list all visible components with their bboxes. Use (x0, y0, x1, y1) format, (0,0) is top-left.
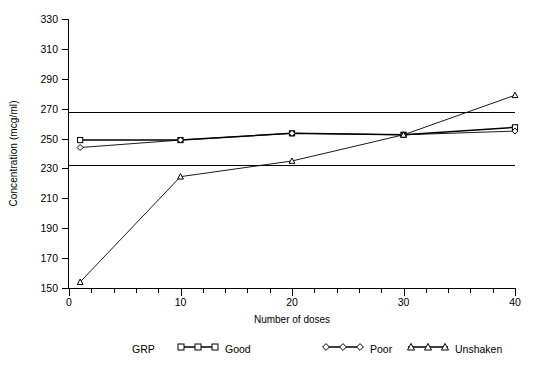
y-tick-label-text: 270 (28, 104, 58, 114)
diamond-marker (357, 344, 364, 351)
y-tick-label-text: 230 (28, 163, 58, 173)
y-tick-label: 150 (26, 283, 58, 293)
y-tick-label-text: 250 (28, 134, 58, 144)
x-tick-minor (203, 289, 204, 293)
y-tick (62, 19, 69, 20)
y-axis-title: Concentration (mcg/ml) (8, 19, 26, 288)
diamond-marker (77, 145, 83, 151)
y-tick-label: 210 (26, 193, 58, 203)
x-tick-minor (314, 289, 315, 293)
y-tick (62, 168, 69, 169)
x-tick-major (181, 289, 182, 296)
plot-area (69, 19, 515, 288)
y-tick-label-text: 330 (28, 14, 58, 24)
series-unshaken (77, 92, 518, 284)
x-tick-minor (337, 289, 338, 293)
x-tick-minor (114, 289, 115, 293)
y-tick-label: 270 (26, 104, 58, 114)
y-tick (62, 228, 69, 229)
x-tick-minor (136, 289, 137, 293)
x-tick-minor (359, 289, 360, 293)
x-tick-major (515, 289, 516, 296)
y-tick-label-text: 170 (28, 253, 58, 263)
legend-label-poor: Poor (370, 343, 392, 355)
y-tick (62, 198, 69, 199)
x-tick-minor (493, 289, 494, 293)
x-tick-label: 30 (384, 296, 424, 308)
x-tick-minor (91, 289, 92, 293)
y-tick-label: 290 (26, 74, 58, 84)
square-marker (178, 344, 184, 350)
y-tick-label-text: 150 (28, 283, 58, 293)
x-axis-title: Number of doses (69, 314, 515, 325)
legend-title: GRP (132, 343, 155, 355)
legend-label-unshaken: Unshaken (455, 343, 502, 355)
y-tick-label: 230 (26, 163, 58, 173)
y-tick-label: 170 (26, 253, 58, 263)
x-tick-minor (470, 289, 471, 293)
y-tick (62, 49, 69, 50)
legend-key-poor (320, 340, 366, 354)
y-tick-label: 250 (26, 134, 58, 144)
x-tick-label: 20 (272, 296, 312, 308)
y-tick (62, 139, 69, 140)
x-tick-minor (426, 289, 427, 293)
chart-figure: Concentration (mcg/ml) Number of doses 1… (0, 0, 535, 373)
y-tick-label: 330 (26, 14, 58, 24)
y-tick (62, 258, 69, 259)
x-tick-major (69, 289, 70, 296)
x-tick-minor (381, 289, 382, 293)
x-tick-label: 10 (161, 296, 201, 308)
x-tick-label: 0 (49, 296, 89, 308)
y-tick-label: 310 (26, 44, 58, 54)
legend-key-good (175, 340, 221, 354)
diamond-marker (323, 344, 330, 351)
x-tick-major (292, 289, 293, 296)
y-tick-label: 190 (26, 223, 58, 233)
x-tick-minor (270, 289, 271, 293)
series-layer (69, 19, 515, 288)
y-tick-label-text: 310 (28, 44, 58, 54)
square-marker (78, 137, 83, 142)
y-tick-label-text: 290 (28, 74, 58, 84)
y-tick-label-text: 210 (28, 193, 58, 203)
y-tick (62, 288, 69, 289)
square-marker (212, 344, 218, 350)
x-tick-minor (225, 289, 226, 293)
y-tick (62, 79, 69, 80)
legend-key-unshaken (405, 340, 451, 354)
triangle-marker (512, 92, 518, 97)
y-tick-label-text: 190 (28, 223, 58, 233)
x-tick-minor (448, 289, 449, 293)
x-tick-minor (158, 289, 159, 293)
x-tick-label: 40 (495, 296, 535, 308)
x-tick-major (404, 289, 405, 296)
square-marker (195, 344, 201, 350)
legend-label-good: Good (225, 343, 251, 355)
x-tick-minor (247, 289, 248, 293)
chart-legend: GRP GoodPoorUnshaken (0, 340, 535, 360)
diamond-marker (340, 344, 347, 351)
series-line (80, 95, 515, 282)
y-tick (62, 109, 69, 110)
